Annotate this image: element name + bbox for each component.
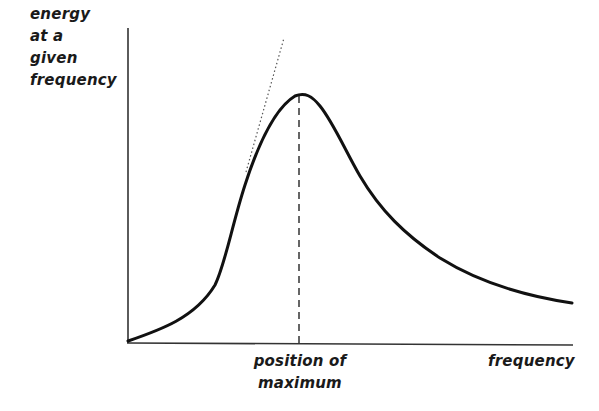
tangent-dotted-line <box>246 38 284 172</box>
peak-label-line: position of <box>245 350 355 372</box>
y-axis-label-line: frequency <box>30 69 117 91</box>
y-axis-label-line: energy <box>30 3 117 25</box>
peak-position-label: position of maximum <box>245 350 355 394</box>
y-axis-label: energy at a given frequency <box>30 3 117 91</box>
x-axis <box>127 343 573 345</box>
peak-label-line: maximum <box>245 372 355 394</box>
y-axis-label-line: given <box>30 47 117 69</box>
energy-curve <box>128 94 572 341</box>
x-axis-label: frequency <box>488 350 575 372</box>
y-axis-label-line: at a <box>30 25 117 47</box>
